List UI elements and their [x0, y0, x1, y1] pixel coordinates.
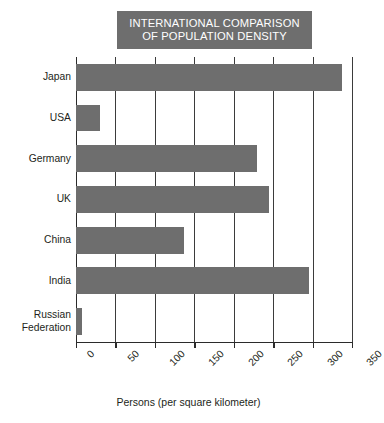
- x-tick-mark: [155, 342, 156, 348]
- x-tick-label: 100: [167, 348, 187, 368]
- bar-usa: [76, 105, 100, 132]
- category-label-china: China: [1, 234, 71, 246]
- category-label-india: India: [1, 275, 71, 287]
- x-tick-mark: [352, 342, 353, 348]
- chart-title-line-2: OF POPULATION DENSITY: [142, 30, 287, 43]
- bar-row: [76, 64, 352, 91]
- category-label-usa: USA: [1, 112, 71, 124]
- bar-china: [76, 227, 184, 254]
- x-tick-label: 150: [206, 348, 226, 368]
- x-axis-title: Persons (per square kilometer): [0, 396, 377, 408]
- chart-title: INTERNATIONAL COMPARISON OF POPULATION D…: [117, 11, 312, 49]
- x-tick-label: 250: [285, 348, 305, 368]
- category-label-uk: UK: [1, 193, 71, 205]
- x-tick-mark: [234, 342, 235, 348]
- bar-japan: [76, 64, 342, 91]
- x-tick-label: 50: [126, 348, 142, 364]
- x-tick-mark: [76, 342, 77, 348]
- category-label-germany: Germany: [1, 153, 71, 165]
- x-tick-label: 0: [85, 348, 97, 360]
- plot-area: [76, 57, 352, 342]
- x-tick-mark: [194, 342, 195, 348]
- bar-row: [76, 308, 352, 335]
- bar-uk: [76, 186, 269, 213]
- x-tick-label: 200: [246, 348, 266, 368]
- x-tick-mark: [273, 342, 274, 348]
- x-tick-label: 300: [325, 348, 345, 368]
- category-axis-labels: JapanUSAGermanyUKChinaIndiaRussian Feder…: [0, 57, 71, 342]
- bar-germany: [76, 145, 257, 172]
- category-label-japan: Japan: [1, 71, 71, 83]
- chart-title-line-1: INTERNATIONAL COMPARISON: [129, 17, 300, 30]
- x-axis-tick-labels: 050100150200250300350: [76, 344, 366, 390]
- category-label-russian-federation: Russian Federation: [1, 309, 71, 333]
- bar-row: [76, 267, 352, 294]
- gridline: [352, 57, 353, 342]
- bar-row: [76, 227, 352, 254]
- bar-row: [76, 186, 352, 213]
- bar-row: [76, 145, 352, 172]
- x-tick-label: 350: [364, 348, 384, 368]
- bar-russian-federation: [76, 308, 82, 335]
- x-tick-mark: [115, 342, 116, 348]
- bar-row: [76, 105, 352, 132]
- bar-india: [76, 267, 309, 294]
- x-tick-mark: [313, 342, 314, 348]
